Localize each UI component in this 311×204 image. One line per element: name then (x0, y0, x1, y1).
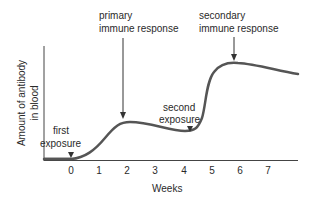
x-axis-label: Weeks (152, 183, 182, 194)
svg-text:3: 3 (152, 165, 158, 176)
y-axis-label: Amount of antibody in blood (16, 60, 40, 146)
arrow-down-icon (231, 54, 237, 61)
svg-text:first: first (53, 125, 69, 136)
svg-text:5: 5 (209, 165, 215, 176)
svg-text:Amount of antibody: Amount of antibody (16, 60, 27, 146)
svg-text:6: 6 (237, 165, 243, 176)
svg-text:immune response: immune response (99, 23, 179, 34)
svg-text:primary: primary (99, 10, 132, 21)
svg-text:secondary: secondary (199, 10, 245, 21)
arrow-down-icon (120, 112, 126, 119)
annotation-secondary-response: secondary immune response (199, 10, 279, 61)
svg-text:1: 1 (96, 165, 102, 176)
svg-text:second: second (163, 102, 195, 113)
svg-text:7: 7 (265, 165, 271, 176)
antibody-response-chart: Amount of antibody in blood 0 1 2 3 4 5 … (0, 0, 311, 204)
annotation-first-exposure: first exposure (40, 125, 82, 158)
svg-text:0: 0 (68, 165, 74, 176)
svg-text:exposure: exposure (159, 114, 201, 125)
svg-text:immune response: immune response (199, 23, 279, 34)
svg-text:4: 4 (181, 165, 187, 176)
svg-text:exposure: exposure (40, 138, 82, 149)
x-tick-labels: 0 1 2 3 4 5 6 7 (68, 165, 271, 176)
svg-text:2: 2 (124, 165, 130, 176)
triangle-marker-icon (68, 152, 74, 158)
svg-text:in blood: in blood (29, 85, 40, 120)
